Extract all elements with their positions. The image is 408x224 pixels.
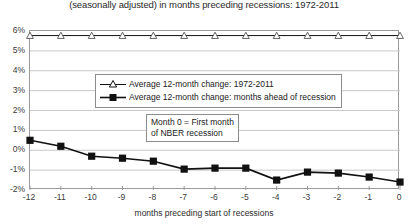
x-tick-label: -4 [272,192,280,202]
x-tick-label: -9 [118,192,126,202]
data-point-marker-square [366,173,373,180]
x-tick-label: -7 [179,192,187,202]
series-average-1972-2011 [27,32,404,38]
x-tick-label: -12 [23,192,35,202]
data-point-marker-square [304,169,311,176]
data-point-marker-square [242,165,249,172]
series-months-ahead-of-recession [26,137,403,186]
month-zero-note-line2: of NBER recession [151,128,234,139]
x-tick-label: -5 [241,192,249,202]
x-axis-label: months preceding start of recessions [0,208,408,218]
chart-legend: Average 12-month change: 1972-2011 Avera… [95,74,342,108]
legend-item-average-1972-2011: Average 12-month change: 1972-2011 [100,78,336,91]
data-point-marker-square [273,176,280,183]
data-point-marker-square [150,158,157,165]
x-tick-label: -1 [364,192,372,202]
data-point-marker-square [119,155,126,162]
series-layer [30,31,400,190]
x-tick-label: 0 [397,192,402,202]
x-tick-label: -6 [210,192,218,202]
y-tick-label: 0% [0,144,25,154]
legend-item-months-ahead: Average 12-month change: months ahead of… [100,91,336,104]
data-point-marker-square [335,170,342,177]
filled-square-marker-icon [100,92,126,103]
data-point-marker-square [396,178,403,185]
data-point-marker-square [57,143,64,150]
x-tick-marks [30,186,400,190]
x-tick-label: -8 [149,192,157,202]
gridlines [30,51,400,170]
chart-container: (seasonally adjusted) in months precedin… [0,0,408,224]
x-tick-label: -2 [334,192,342,202]
data-point-marker-square [181,166,188,173]
legend-label-months-ahead: Average 12-month change: months ahead of… [129,91,336,104]
plot-area [29,30,399,189]
y-tick-label: 6% [0,25,25,35]
data-point-marker-square [211,165,218,172]
y-tick-label: 1% [0,124,25,134]
y-tick-label: 5% [0,45,25,55]
data-point-marker-square [88,153,95,160]
series-line [30,140,400,182]
x-tick-label: -3 [303,192,311,202]
y-tick-label: 3% [0,85,25,95]
y-tick-label: 4% [0,65,25,75]
month-zero-note: Month 0 = First month of NBER recession [146,114,239,142]
month-zero-note-line1: Month 0 = First month [151,117,234,128]
chart-title: (seasonally adjusted) in months precedin… [0,0,408,10]
data-point-marker-square [26,137,33,144]
open-triangle-marker-icon [100,79,126,90]
y-tick-label: -1% [0,164,25,174]
y-tick-label: 2% [0,105,25,115]
x-tick-label: -11 [54,192,66,202]
y-tick-label: -2% [0,184,25,194]
legend-label-average-1972-2011: Average 12-month change: 1972-2011 [129,78,274,91]
x-tick-label: -10 [85,192,97,202]
